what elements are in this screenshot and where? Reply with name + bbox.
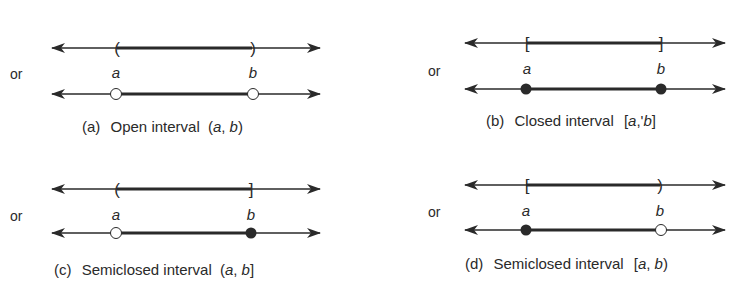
label-b: b [657,60,665,77]
bracket-number-line: [ ] [465,34,725,53]
or-label: or [10,208,23,224]
label-a: a [112,64,120,81]
bracket-number-line: [ ) [465,176,725,195]
open-endpoint-icon [111,89,122,100]
right-bracket: ] [249,180,254,199]
open-endpoint-icon [111,228,122,239]
left-bracket: ( [114,180,120,199]
caption: (d) Semiclosed interval [a, b) [465,255,668,272]
panel-c: ( ] or a b (c) Semiclosed interval (a, b… [10,180,320,278]
right-bracket: ) [657,176,663,195]
left-bracket: ( [114,39,120,58]
dot-number-line [52,89,320,100]
interval-diagram: ( ) or a b (a) Open interval (a, b) [ ] … [0,0,750,303]
left-bracket: [ [525,34,530,53]
left-bracket: [ [525,176,530,195]
caption-prefix: (a) [82,118,100,135]
label-b: b [247,206,255,223]
caption: (a) Open interval (a, b) [82,118,243,135]
closed-endpoint-icon [656,84,667,95]
caption: (b) Closed interval [a,'b] [486,112,656,129]
or-label: or [428,63,441,79]
label-b: b [249,64,257,81]
caption-prefix: (c) [54,261,72,278]
bracket-number-line: ( ) [52,39,320,58]
caption-text: Open interval [111,118,200,135]
dot-number-line [465,84,725,95]
panel-d: [ ) or a b (d) Semiclosed interval [a, b… [428,176,725,272]
caption: (c) Semiclosed interval (a, b] [54,261,254,278]
label-a: a [112,206,120,223]
panel-b: [ ] or a b (b) Closed interval [a,'b] [428,34,725,129]
caption-prefix: (d) [465,255,483,272]
caption-text: Semiclosed interval [82,261,212,278]
open-endpoint-icon [656,225,667,236]
dot-number-line [52,228,320,239]
caption-text: Semiclosed interval [494,255,624,272]
right-bracket: ) [250,39,256,58]
open-endpoint-icon [248,89,259,100]
or-label: or [428,204,441,220]
label-b: b [656,202,664,219]
closed-endpoint-icon [521,84,532,95]
caption-prefix: (b) [486,112,504,129]
panel-a: ( ) or a b (a) Open interval (a, b) [10,39,320,135]
or-label: or [10,66,23,82]
label-a: a [523,60,531,77]
right-bracket: ] [659,34,664,53]
closed-endpoint-icon [246,228,257,239]
label-a: a [522,202,530,219]
dot-number-line [465,225,725,236]
bracket-number-line: ( ] [52,180,320,199]
caption-text: Closed interval [515,112,614,129]
closed-endpoint-icon [521,225,532,236]
